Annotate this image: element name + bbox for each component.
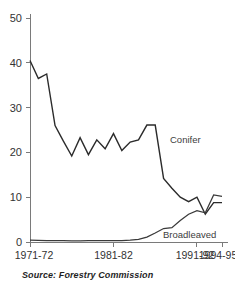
- y-axis: 01020304050: [10, 12, 30, 248]
- y-tick-label: 30: [10, 102, 22, 114]
- x-axis: 1971-721981-821991-921994-95: [15, 242, 235, 261]
- x-tick-label: 1994-95: [199, 249, 235, 261]
- x-axis-ticks: 1971-721981-821991-921994-95: [15, 242, 235, 261]
- y-tick-label: 10: [10, 191, 22, 203]
- series-group: [30, 61, 222, 241]
- y-tick-label: 50: [10, 12, 22, 24]
- y-tick-label: 0: [16, 236, 22, 248]
- y-axis-ticks: 01020304050: [10, 12, 30, 248]
- line-chart-plot: 01020304050 1971-721981-821991-921994-95…: [0, 0, 235, 265]
- x-tick-label: 1971-72: [15, 249, 54, 261]
- series-label-broadleaved: Broadleaved: [163, 229, 216, 240]
- series-label-conifer: Conifer: [170, 134, 201, 145]
- chart-figure: 01020304050 1971-721981-821991-921994-95…: [0, 0, 235, 287]
- y-tick-label: 40: [10, 57, 22, 69]
- source-note: Source: Forestry Commission: [22, 270, 153, 280]
- y-tick-label: 20: [10, 146, 22, 158]
- x-tick-label: 1981-82: [94, 249, 133, 261]
